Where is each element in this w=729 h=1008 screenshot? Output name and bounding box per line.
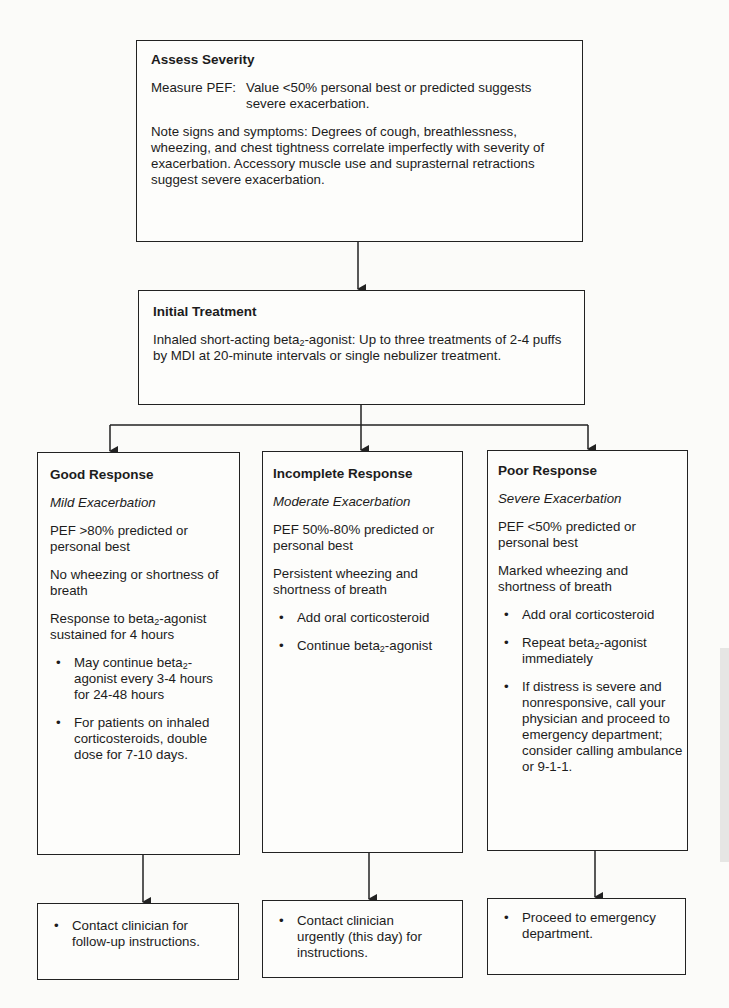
bullet-icon: • — [56, 715, 61, 731]
list-item: •Contact clinician for follow-up instruc… — [48, 918, 222, 950]
incomplete-response-pef: PEF 50%-80% predicted or personal best — [273, 522, 448, 554]
page-edge-shadow — [720, 648, 729, 862]
bullet-icon: • — [56, 655, 61, 671]
bullet-text-pre: Repeat beta — [522, 635, 594, 650]
bullet-text-pre: Add oral corticosteroid — [297, 610, 429, 625]
good-response-symptoms: No wheezing or shortness of breath — [50, 567, 230, 599]
list-item: •For patients on inhaled corticosteroids… — [50, 715, 232, 763]
incomplete-response-severity: Moderate Exacerbation — [273, 494, 454, 510]
good-response-box: Good Response Mild Exacerbation PEF >80%… — [37, 452, 240, 855]
bullet-icon: • — [504, 635, 509, 651]
bullet-icon: • — [279, 610, 284, 626]
bullet-text-pre: If distress is severe and nonresponsive,… — [522, 679, 682, 774]
incomplete-response-title: Incomplete Response — [273, 466, 454, 482]
poor-response-box: Poor Response Severe Exacerbation PEF <5… — [487, 450, 688, 851]
measure-pef-row: Measure PEF: Value <50% personal best or… — [151, 80, 568, 112]
bullet-text-post: -agonist — [385, 638, 432, 653]
bullet-text-pre: For patients on inhaled corticosteroids,… — [74, 715, 209, 762]
assess-severity-title: Assess Severity — [151, 52, 568, 68]
bullet-text-pre: Continue beta — [297, 638, 380, 653]
list-item: •Repeat beta2-agonist immediately — [498, 635, 670, 667]
poor-response-title: Poor Response — [498, 463, 679, 479]
good-response-severity: Mild Exacerbation — [50, 495, 229, 511]
signs-symptoms-text: Note signs and symptoms: Degrees of coug… — [151, 124, 551, 188]
initial-text-pre: Inhaled short-acting beta — [153, 332, 299, 347]
good-response-sustained: Response to beta2-agonist sustained for … — [50, 611, 230, 643]
good-response-sustained-pre: Response to beta — [50, 611, 154, 626]
bullet-icon: • — [279, 913, 284, 929]
bullet-icon: • — [504, 607, 509, 623]
bullet-icon: • — [504, 910, 509, 926]
list-item: •If distress is severe and nonresponsive… — [498, 679, 686, 775]
poor-response-action-list: •Proceed to emergency department. — [498, 910, 677, 942]
measure-pef-label: Measure PEF: — [151, 80, 246, 112]
poor-response-action-box: •Proceed to emergency department. — [487, 898, 686, 975]
good-response-action-text: Contact clinician for follow-up instruct… — [72, 918, 200, 949]
assess-severity-box: Assess Severity Measure PEF: Value <50% … — [136, 40, 583, 242]
poor-response-pef: PEF <50% predicted or personal best — [498, 519, 658, 551]
poor-response-action-text: Proceed to emergency department. — [522, 910, 656, 941]
incomplete-response-box: Incomplete Response Moderate Exacerbatio… — [262, 451, 463, 853]
good-response-action-box: •Contact clinician for follow-up instruc… — [37, 903, 239, 980]
good-response-title: Good Response — [50, 467, 229, 483]
initial-treatment-title: Initial Treatment — [153, 304, 570, 320]
list-item: •Proceed to emergency department. — [498, 910, 682, 942]
good-response-bullets: •May continue beta2-agonist every 3-4 ho… — [50, 655, 229, 763]
incomplete-response-action-list: •Contact clinician urgently (this day) f… — [273, 913, 454, 961]
measure-pef-text: Value <50% personal best or predicted su… — [246, 80, 536, 112]
list-item: •Continue beta2-agonist — [273, 638, 454, 654]
good-response-pef: PEF >80% predicted or personal best — [50, 523, 210, 555]
poor-response-symptoms: Marked wheezing and shortness of breath — [498, 563, 663, 595]
bullet-icon: • — [504, 679, 509, 695]
list-item: •Contact clinician urgently (this day) f… — [273, 913, 432, 961]
list-item: •Add oral corticosteroid — [273, 610, 454, 626]
bullet-icon: • — [279, 638, 284, 654]
list-item: •May continue beta2-agonist every 3-4 ho… — [50, 655, 229, 703]
bullet-text-pre: Add oral corticosteroid — [522, 607, 654, 622]
bullet-text-pre: May continue beta — [74, 655, 183, 670]
list-item: •Add oral corticosteroid — [498, 607, 679, 623]
good-response-action-list: •Contact clinician for follow-up instruc… — [48, 918, 230, 950]
incomplete-response-bullets: •Add oral corticosteroid •Continue beta2… — [273, 610, 454, 654]
incomplete-response-symptoms: Persistent wheezing and shortness of bre… — [273, 566, 448, 598]
incomplete-response-action-box: •Contact clinician urgently (this day) f… — [262, 900, 463, 978]
incomplete-response-action-text: Contact clinician urgently (this day) fo… — [297, 913, 422, 960]
initial-treatment-box: Initial Treatment Inhaled short-acting b… — [138, 290, 585, 405]
bullet-icon: • — [54, 918, 59, 934]
initial-treatment-text: Inhaled short-acting beta2-agonist: Up t… — [153, 332, 563, 364]
poor-response-bullets: •Add oral corticosteroid •Repeat beta2-a… — [498, 607, 679, 775]
poor-response-severity: Severe Exacerbation — [498, 491, 679, 507]
